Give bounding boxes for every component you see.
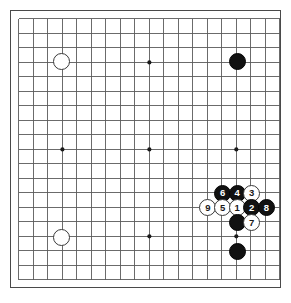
star-point: [234, 234, 238, 238]
star-point: [147, 147, 151, 151]
star-point: [234, 60, 238, 64]
star-point: [60, 147, 64, 151]
star-point: [147, 60, 151, 64]
board-grid: [11, 11, 280, 287]
star-point: [234, 147, 238, 151]
go-board-diagram: 643951287: [0, 0, 291, 303]
star-point: [60, 60, 64, 64]
star-point: [147, 234, 151, 238]
star-point: [60, 234, 64, 238]
go-board[interactable]: [10, 10, 281, 288]
